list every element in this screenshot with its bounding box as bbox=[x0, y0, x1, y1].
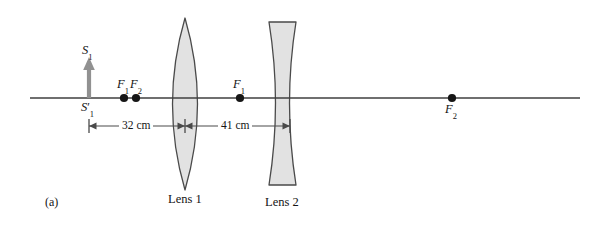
object-arrow-s1 bbox=[83, 57, 95, 98]
object-label-s1-bottom-subscript: 1 bbox=[90, 109, 94, 119]
focal-point-f1-mid-subscript: 1 bbox=[241, 86, 245, 96]
focal-point-f1-mid-label: F1 bbox=[233, 78, 245, 93]
object-label-s1-top-subscript: 1 bbox=[88, 52, 92, 62]
object-label-s1-top: S1 bbox=[82, 44, 93, 59]
focal-point-f2-left-letter: F bbox=[130, 77, 138, 91]
dimension-41cm-label: 41 cm bbox=[218, 119, 252, 131]
focal-point-f2-right-label: F2 bbox=[445, 103, 457, 118]
focal-point-f1-left-letter: F bbox=[117, 77, 125, 91]
lens-2-shape bbox=[269, 22, 296, 185]
focal-point-f2-left-subscript: 2 bbox=[138, 86, 142, 96]
focal-point-f2-right-letter: F bbox=[445, 102, 453, 116]
dimension-32cm-label: 32 cm bbox=[119, 119, 153, 131]
focal-point-f2-right-dot bbox=[448, 94, 456, 102]
lens-1-label: Lens 1 bbox=[168, 192, 202, 207]
focal-point-f1-left-label: F1 bbox=[117, 78, 129, 93]
focal-point-f1-left-subscript: 1 bbox=[125, 86, 129, 96]
focal-point-f1-mid-letter: F bbox=[233, 77, 241, 91]
optics-figure: S1 S′1 F1 F2 F1 F2 32 cm 41 cm Lens 1 Le… bbox=[0, 0, 605, 227]
lens-1-shape bbox=[173, 18, 198, 190]
object-label-s1-bottom: S′1 bbox=[81, 101, 94, 116]
lens-2-label: Lens 2 bbox=[265, 195, 299, 210]
focal-point-f2-right-subscript: 2 bbox=[453, 111, 457, 121]
panel-label: (a) bbox=[45, 195, 58, 210]
focal-point-f2-left-label: F2 bbox=[130, 78, 142, 93]
